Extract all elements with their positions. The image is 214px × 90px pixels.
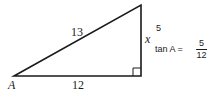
tan-equation-lhs: tan A = bbox=[155, 45, 183, 54]
opposite-side-value: 5 bbox=[156, 24, 161, 33]
fraction-numerator: 5 bbox=[199, 39, 204, 48]
triangle-diagram: 13 12 A x 5 tan A = 5 12 bbox=[0, 0, 214, 90]
hypotenuse-label: 13 bbox=[71, 26, 83, 38]
right-triangle bbox=[14, 5, 141, 76]
opposite-side-label: x bbox=[145, 33, 150, 45]
tan-fraction: 5 12 bbox=[196, 39, 207, 60]
adjacent-side-label: 12 bbox=[72, 79, 84, 90]
vertex-a-label: A bbox=[8, 79, 15, 90]
fraction-denominator: 12 bbox=[196, 51, 206, 60]
right-angle-marker bbox=[133, 68, 141, 76]
